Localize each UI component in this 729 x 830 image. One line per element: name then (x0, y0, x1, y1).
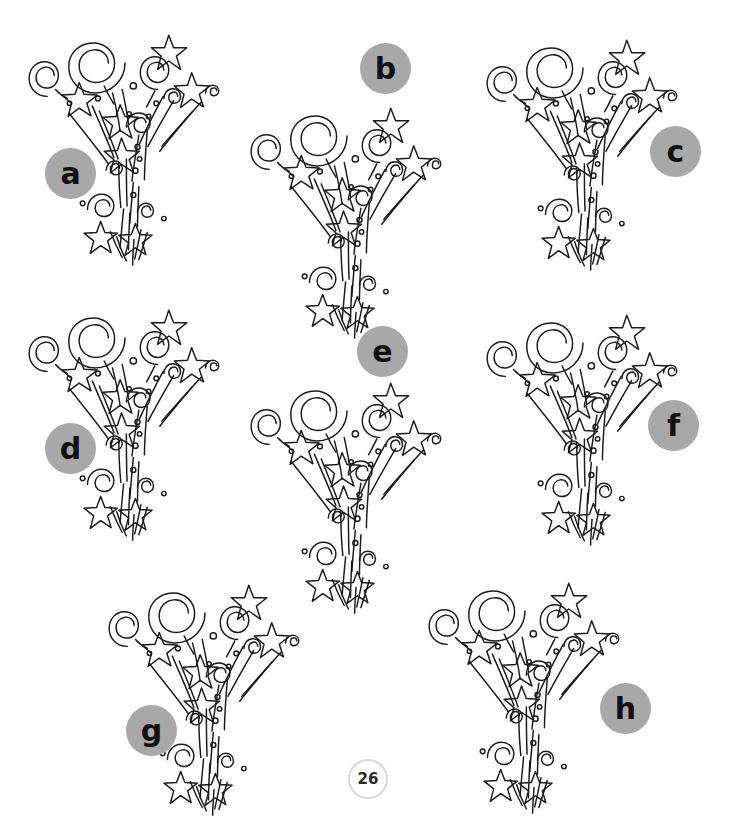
item-label-c[interactable]: c (650, 126, 701, 177)
item-label-h[interactable]: h (600, 683, 651, 734)
item-label-a[interactable]: a (45, 148, 96, 199)
firework-doodle-a (10, 20, 240, 270)
item-label-g[interactable]: g (126, 705, 177, 756)
item-label-a-text: a (60, 159, 80, 189)
item-label-d-text: d (60, 434, 81, 464)
firework-doodle-g (90, 570, 320, 820)
item-label-b[interactable]: b (360, 43, 411, 94)
item-label-d[interactable]: d (45, 423, 96, 474)
item-label-c-text: c (667, 137, 685, 167)
firework-svg-d (10, 295, 240, 545)
item-label-f[interactable]: f (648, 400, 699, 451)
page-number-text: 26 (358, 770, 379, 788)
page-number-badge: 26 (348, 759, 388, 799)
firework-svg-a (10, 20, 240, 270)
item-label-e[interactable]: e (357, 326, 408, 377)
item-label-e-text: e (372, 337, 392, 367)
firework-svg-g (90, 570, 320, 820)
firework-doodle-b (232, 93, 462, 343)
cut-off-header-text (0, 0, 729, 10)
item-label-f-text: f (667, 411, 680, 441)
firework-doodle-d (10, 295, 240, 545)
item-label-b-text: b (375, 54, 396, 84)
item-label-g-text: g (141, 716, 162, 746)
item-label-h-text: h (615, 694, 636, 724)
worksheet-page: a b c d e f (0, 0, 729, 830)
firework-svg-b (232, 93, 462, 343)
